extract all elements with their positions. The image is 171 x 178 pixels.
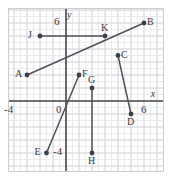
y-tick-label--4: -4 <box>53 146 62 157</box>
data-point-a[interactable] <box>25 73 30 78</box>
data-point-e[interactable] <box>44 151 49 156</box>
y-axis-label: y <box>67 10 71 20</box>
origin-label: 0 <box>56 104 62 115</box>
point-label-e: E <box>35 147 41 157</box>
point-label-g: G <box>88 75 95 85</box>
figure-graph: ABCDEFGHJK-466-40xy <box>0 0 171 178</box>
data-point-b[interactable] <box>142 21 147 26</box>
data-layer <box>9 9 164 172</box>
point-label-d: D <box>127 117 134 127</box>
segment-ef <box>47 75 80 153</box>
point-label-f: F <box>82 69 88 79</box>
data-point-f[interactable] <box>77 73 82 78</box>
data-point-g[interactable] <box>90 86 95 91</box>
point-label-a: A <box>15 69 22 79</box>
data-point-k[interactable] <box>103 34 108 39</box>
segment-cd <box>118 56 131 115</box>
point-label-c: C <box>121 50 128 60</box>
data-point-j[interactable] <box>38 34 43 39</box>
x-tick-label-6: 6 <box>141 104 147 115</box>
y-tick-label-6: 6 <box>54 16 60 27</box>
point-label-k: K <box>101 23 108 33</box>
point-label-j: J <box>28 30 32 40</box>
data-point-c[interactable] <box>116 53 121 58</box>
x-axis-label: x <box>151 89 155 99</box>
x-tick-label--4: -4 <box>4 104 13 115</box>
point-label-b: B <box>147 17 154 27</box>
point-label-h: H <box>88 156 95 166</box>
